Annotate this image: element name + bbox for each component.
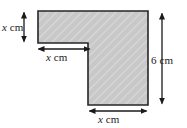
geometry-figure: x cm x cm 6 cm x cm [0,0,187,128]
dimension-unit-right-height: cm [159,54,173,66]
dimension-unit-notch-width: cm [54,51,68,63]
dimension-label-bottom-width: x cm [98,114,119,125]
dimension-label-right-height: 6 cm [151,55,173,66]
dimension-unit-left-height: cm [10,21,24,33]
dimension-label-notch-width: x cm [46,52,67,63]
dimension-unit-bottom-width: cm [106,113,120,125]
dimension-label-left-height: x cm [2,22,23,33]
